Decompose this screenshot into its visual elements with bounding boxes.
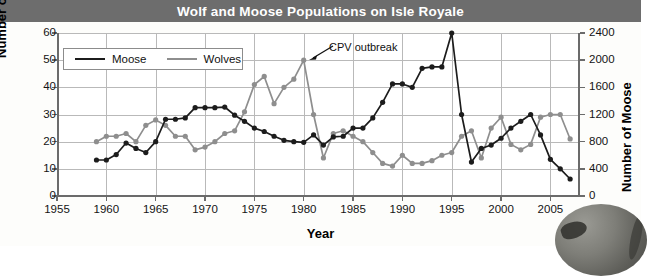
data-point-wolves [449,150,454,155]
y-axis-left-tick-label: 60 [30,26,56,38]
data-point-wolves [400,153,405,158]
x-axis-tick-label: 1960 [86,203,126,215]
data-point-wolves [94,139,99,144]
data-point-moose [143,150,148,155]
y-axis-right-tick-label: 2400 [589,26,623,38]
x-axis-tick-label: 1970 [185,203,225,215]
x-axis-tick [550,196,551,201]
x-axis-tick-label: 1955 [37,203,77,215]
data-point-moose [449,30,454,35]
series-line-wolves [96,60,570,166]
y-axis-left-tick-label: 50 [30,53,56,65]
data-point-moose [528,112,533,117]
data-point-moose [123,140,128,145]
data-point-moose [429,64,434,69]
data-point-wolves [311,112,316,117]
data-point-moose [508,125,513,130]
data-point-wolves [548,112,553,117]
y-axis-left-tick-label: 0 [30,189,56,201]
x-axis-tick [106,196,107,201]
data-point-moose [498,136,503,141]
data-point-wolves [271,101,276,106]
data-point-wolves [321,155,326,160]
x-axis-tick [451,196,452,201]
data-point-moose [252,125,257,130]
data-point-moose [321,142,326,147]
data-point-moose [133,146,138,151]
x-axis-tick [204,196,205,201]
data-point-wolves [360,139,365,144]
data-point-wolves [183,134,188,139]
data-point-wolves [410,161,415,166]
x-axis-tick [402,196,403,201]
data-point-wolves [498,115,503,120]
y-axis-right-tick-label: 800 [589,135,623,147]
data-point-moose [400,81,405,86]
data-point-wolves [114,134,119,139]
x-axis-title: Year [0,226,641,241]
data-point-wolves [568,136,573,141]
data-point-moose [469,159,474,164]
y-axis-right-tick [580,195,585,196]
data-point-wolves [489,125,494,130]
data-point-moose [548,157,553,162]
y-axis-left-tick-label: 10 [30,162,56,174]
x-axis-tick [352,196,353,201]
data-point-moose [370,115,375,120]
legend-label-wolves: Wolves [204,53,242,65]
data-point-wolves [538,115,543,120]
y-axis-right-tick [580,59,585,60]
data-point-wolves [429,158,434,163]
data-point-wolves [281,85,286,90]
data-point-moose [173,117,178,122]
data-point-wolves [518,147,523,152]
title-bar: Wolf and Moose Populations on Isle Royal… [0,0,641,22]
data-point-moose [232,113,237,118]
legend-entry-wolves: Wolves [167,53,242,65]
legend-entry-moose: Moose [75,53,147,65]
y-axis-right-tick [580,168,585,169]
data-point-wolves [439,153,444,158]
data-point-wolves [252,82,257,87]
y-axis-right-tick-label: 1200 [589,108,623,120]
annotation-arrow-icon [306,44,336,62]
y-axis-right-tick [580,87,585,88]
data-point-wolves [341,128,346,133]
data-point-moose [360,125,365,130]
x-axis-tick-label: 1980 [284,203,324,215]
y-axis-left-tick-label: 20 [30,135,56,147]
data-point-moose [350,125,355,130]
y-axis-right-tick-label: 1600 [589,80,623,92]
data-point-moose [558,166,563,171]
data-point-wolves [459,134,464,139]
data-point-wolves [173,134,178,139]
x-axis-tick-label: 2005 [530,203,570,215]
data-point-moose [459,112,464,117]
data-point-moose [291,139,296,144]
annotation-cpv-outbreak-label: CPV outbreak [329,41,397,53]
data-point-moose [212,105,217,110]
data-point-moose [183,115,188,120]
chart-legend: Moose Wolves [63,48,243,70]
data-point-wolves [143,123,148,128]
data-point-moose [94,157,99,162]
data-point-wolves [232,128,237,133]
data-point-moose [380,100,385,105]
x-axis-tick-label: 1990 [382,203,422,215]
data-point-moose [281,138,286,143]
y-axis-left-tick-label: 40 [30,80,56,92]
data-point-moose [420,66,425,71]
decorative-photo-circle [555,204,647,276]
legend-swatch-wolves-icon [167,58,197,60]
data-point-wolves [133,139,138,144]
data-point-wolves [123,131,128,136]
y-axis-left-title: Number of Wolves [0,0,9,58]
data-point-wolves [193,147,198,152]
data-point-moose [202,105,207,110]
data-point-moose [311,132,316,137]
data-point-moose [538,132,543,137]
y-axis-right-tick [580,141,585,142]
data-point-wolves [262,74,267,79]
data-point-moose [390,81,395,86]
